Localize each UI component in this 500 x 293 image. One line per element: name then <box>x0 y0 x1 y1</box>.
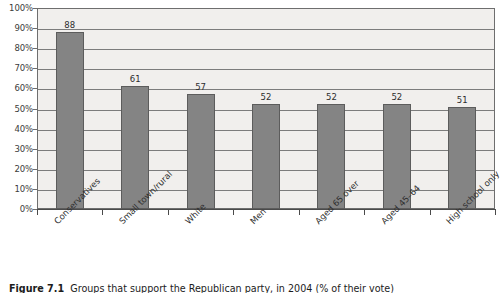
bar-value-label: 88 <box>50 20 90 30</box>
x-tick-mark <box>364 210 365 215</box>
caption-text: Groups that support the Republican party… <box>70 283 394 293</box>
y-tick-label: 100% <box>9 3 33 13</box>
y-tick-label: 20% <box>14 164 33 174</box>
x-tick-mark <box>299 210 300 215</box>
y-tick-label: 10% <box>14 184 33 194</box>
y-tick-label: 50% <box>14 104 33 114</box>
bar-value-label: 57 <box>181 82 221 92</box>
bar[interactable] <box>56 32 84 209</box>
bar-value-label: 52 <box>377 92 417 102</box>
bar-value-label: 52 <box>246 92 286 102</box>
figure-container: 100%90%80%70%60%50%40%30%20%10%0% 886157… <box>0 0 500 293</box>
x-tick-mark <box>233 210 234 215</box>
x-tick-mark <box>37 210 38 215</box>
y-tick-label: 30% <box>14 144 33 154</box>
figure-caption: Figure 7.1 Groups that support the Repub… <box>9 283 495 293</box>
x-axis-line <box>37 209 496 210</box>
x-tick-mark <box>430 210 431 215</box>
y-tick-label: 70% <box>14 63 33 73</box>
bar-value-label: 61 <box>115 74 155 84</box>
bar[interactable] <box>187 94 215 209</box>
y-axis: 100%90%80%70%60%50%40%30%20%10%0% <box>0 0 33 215</box>
x-tick-mark <box>102 210 103 215</box>
caption-label: Figure 7.1 <box>9 283 64 293</box>
y-tick-label: 60% <box>14 83 33 93</box>
x-tick-mark <box>495 210 496 215</box>
bar-value-label: 51 <box>442 95 482 105</box>
y-tick-label: 0% <box>20 204 33 214</box>
bar-value-label: 52 <box>311 92 351 102</box>
bars-layer: 88615752525251 <box>37 8 495 209</box>
y-tick-label: 90% <box>14 23 33 33</box>
bar[interactable] <box>252 104 280 209</box>
y-tick-label: 80% <box>14 43 33 53</box>
x-tick-mark <box>168 210 169 215</box>
y-tick-label: 40% <box>14 124 33 134</box>
